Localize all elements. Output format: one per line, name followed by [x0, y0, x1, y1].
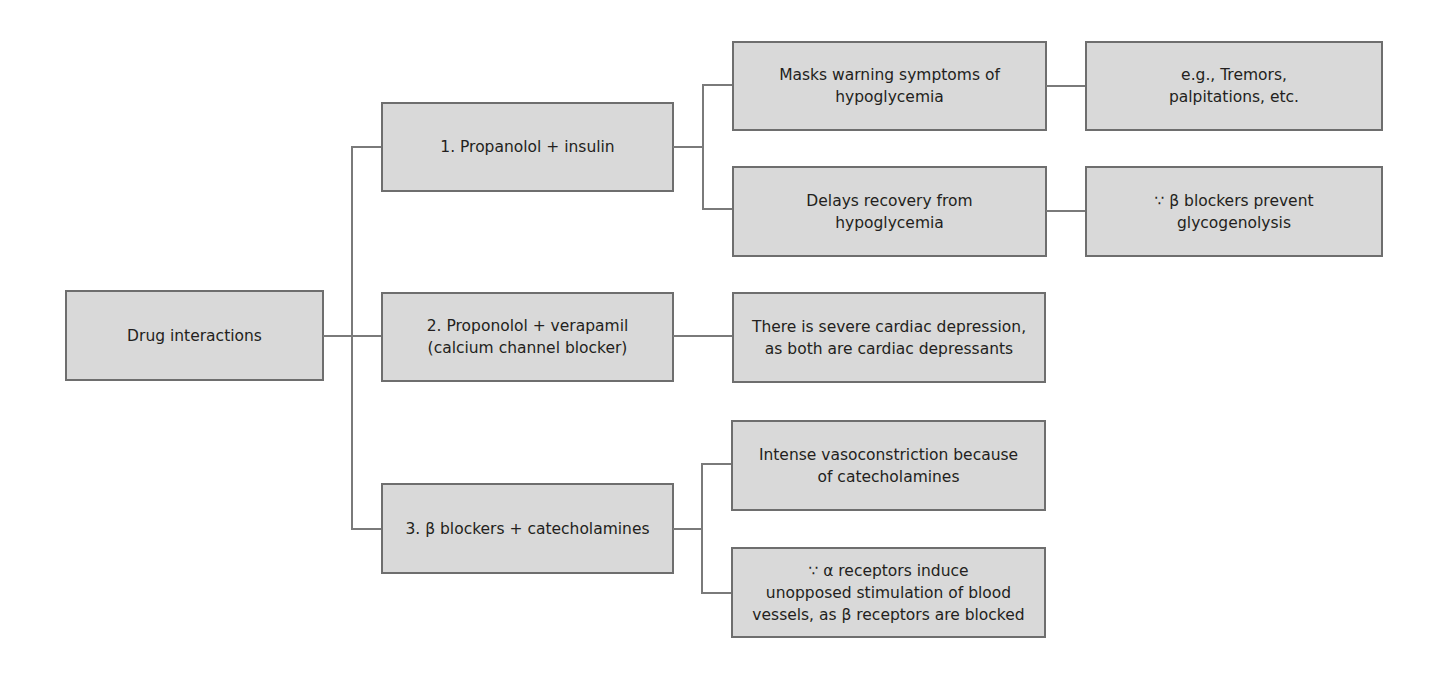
root-node-label: Drug interactions [127, 325, 262, 347]
effect-node-severe-cardiac-depression: There is severe cardiac depression, as b… [732, 292, 1046, 383]
branch-node-proponolol-verapamil: 2. Proponolol + verapamil (calcium chann… [381, 292, 674, 382]
effect-masks-label: Masks warning symptoms of hypoglycemia [779, 64, 1000, 108]
detail-node-prevent-glycogenolysis: ∵ β blockers prevent glycogenolysis [1085, 166, 1383, 257]
connector-branch-1-out [673, 146, 704, 148]
connector-branch-2-to-severe [673, 335, 732, 337]
connector-trunk-to-branch-3 [351, 528, 381, 530]
connector-branch-1-to-delays [702, 208, 732, 210]
connector-trunk-vertical [351, 146, 353, 530]
effect-node-masks-warning-symptoms: Masks warning symptoms of hypoglycemia [732, 41, 1047, 131]
effect-node-alpha-receptors: ∵ α receptors induce unopposed stimulati… [731, 547, 1046, 638]
branch-node-beta-blockers-catecholamines: 3. β blockers + catecholamines [381, 483, 674, 574]
effect-node-intense-vasoconstriction: Intense vasoconstriction because of cate… [731, 420, 1046, 511]
connector-trunk-to-branch-1 [351, 146, 381, 148]
effect-intense-label: Intense vasoconstriction because of cate… [759, 444, 1018, 488]
branch-1-label: 1. Propanolol + insulin [440, 136, 614, 158]
effect-delays-label: Delays recovery from hypoglycemia [806, 190, 972, 234]
effect-alpha-label: ∵ α receptors induce unopposed stimulati… [752, 560, 1024, 626]
connector-branch-1-to-masks [702, 84, 732, 86]
connector-branch-3-out [673, 528, 703, 530]
detail-node-tremors-palpitations: e.g., Tremors, palpitations, etc. [1085, 41, 1383, 131]
connector-branch-3-vertical [701, 463, 703, 594]
branch-node-propanolol-insulin: 1. Propanolol + insulin [381, 102, 674, 192]
effect-node-delays-recovery: Delays recovery from hypoglycemia [732, 166, 1047, 257]
drug-interactions-diagram: Drug interactions 1. Propanolol + insuli… [0, 0, 1444, 676]
detail-tremors-label: e.g., Tremors, palpitations, etc. [1169, 64, 1299, 108]
connector-branch-3-to-intense [701, 463, 732, 465]
connector-delays-to-detail [1046, 210, 1085, 212]
connector-masks-to-detail [1046, 85, 1085, 87]
root-node-drug-interactions: Drug interactions [65, 290, 324, 381]
connector-branch-3-to-alpha [701, 592, 732, 594]
effect-severe-label: There is severe cardiac depression, as b… [752, 316, 1026, 360]
detail-glycogenolysis-label: ∵ β blockers prevent glycogenolysis [1154, 190, 1313, 234]
connector-branch-1-vertical [702, 84, 704, 210]
branch-3-label: 3. β blockers + catecholamines [405, 518, 649, 540]
branch-2-label: 2. Proponolol + verapamil (calcium chann… [427, 315, 629, 359]
